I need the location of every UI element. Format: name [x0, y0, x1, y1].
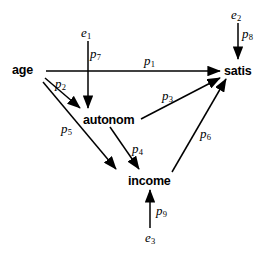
edge-label-p2-subscript: 2: [62, 82, 66, 92]
node-e1-subscript: 1: [87, 31, 91, 41]
edge-p3-autonom-to-satis: [141, 78, 220, 119]
node-e3-subscript: 3: [151, 236, 155, 246]
node-autonom: autonom: [83, 113, 134, 127]
edge-label-p6: p6: [200, 126, 211, 142]
edge-label-p5-base: p: [61, 121, 68, 136]
edge-label-p8-base: p: [242, 26, 249, 41]
node-satis: satis: [224, 64, 252, 78]
edge-label-p1: p1: [144, 53, 155, 69]
node-e2-base: e: [231, 7, 237, 22]
path-diagram: age autonom income satis e1 e2 e3 p1 p2 …: [0, 0, 267, 255]
edge-label-p1-subscript: 1: [151, 59, 155, 69]
edge-label-p4-subscript: 4: [139, 147, 143, 157]
edge-label-p7-subscript: 7: [97, 52, 101, 62]
edge-label-p3-subscript: 3: [169, 94, 173, 104]
edge-label-p2: p2: [55, 76, 66, 92]
edge-label-p5: p5: [61, 121, 72, 137]
node-e2-subscript: 2: [237, 13, 241, 23]
edge-p6-income-to-satis: [172, 79, 226, 172]
node-e2: e2: [231, 7, 241, 23]
edge-label-p3-base: p: [162, 88, 169, 103]
edges-layer: [0, 0, 267, 255]
edge-label-p9-subscript: 9: [163, 209, 167, 219]
edge-label-p6-subscript: 6: [207, 132, 211, 142]
edge-label-p4-base: p: [132, 141, 139, 156]
edge-label-p4: p4: [132, 141, 143, 157]
edge-label-p5-subscript: 5: [68, 127, 72, 137]
edge-label-p6-base: p: [200, 126, 207, 141]
node-income: income: [128, 174, 171, 188]
node-e1: e1: [81, 25, 91, 41]
node-e3-base: e: [145, 230, 151, 245]
edge-label-p7-base: p: [90, 46, 97, 61]
edge-label-p2-base: p: [55, 76, 62, 91]
edge-label-p3: p3: [162, 88, 173, 104]
edge-label-p7: p7: [90, 46, 101, 62]
edge-label-p9: p9: [156, 203, 167, 219]
node-age: age: [12, 63, 33, 77]
edge-label-p8-subscript: 8: [249, 32, 253, 42]
node-e1-base: e: [81, 25, 87, 40]
edge-label-p8: p8: [242, 26, 253, 42]
node-e3: e3: [145, 230, 155, 246]
edge-label-p1-base: p: [144, 53, 151, 68]
edge-label-p9-base: p: [156, 203, 163, 218]
